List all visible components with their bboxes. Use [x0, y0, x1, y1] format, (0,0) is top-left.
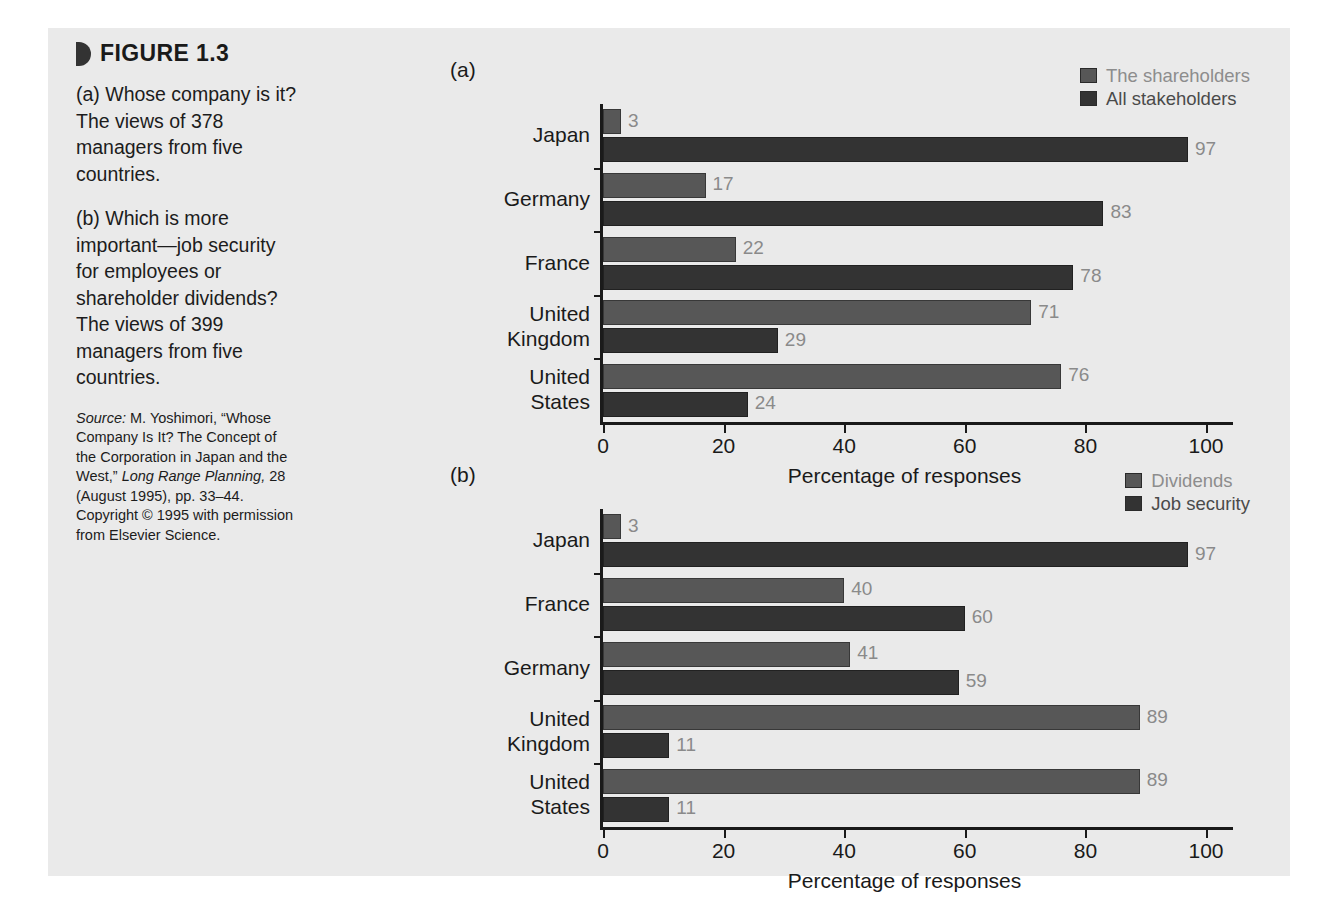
chart-x-axis-line — [600, 827, 1233, 830]
bar-chart-b-2-0 — [603, 642, 850, 667]
chart-a-panel: (a) The shareholders All stakeholders 39… — [448, 48, 1268, 448]
category-tick — [594, 636, 603, 638]
x-axis-tick-label: 0 — [597, 839, 609, 863]
bar-value-label: 3 — [628, 110, 639, 132]
bar-value-label: 78 — [1080, 265, 1101, 287]
figure-panel: FIGURE 1.3 (a) Whose company is it? The … — [48, 28, 1290, 876]
category-label: Germany — [440, 186, 590, 211]
bar-value-label: 76 — [1068, 364, 1089, 386]
category-label: United Kingdom — [440, 706, 590, 756]
bar-chart-a-1-1 — [603, 201, 1103, 226]
category-tick — [594, 231, 603, 233]
x-axis-tick — [603, 830, 605, 838]
category-label: United Kingdom — [440, 301, 590, 351]
bar-chart-a-1-0 — [603, 173, 706, 198]
caption-a-text: (a) Whose company is it? The views of 37… — [76, 83, 296, 185]
bar-value-label: 3 — [628, 515, 639, 537]
bar-value-label: 89 — [1147, 769, 1168, 791]
bar-chart-b-0-1 — [603, 542, 1188, 567]
category-label: Japan — [440, 122, 590, 147]
bar-value-label: 97 — [1195, 543, 1216, 565]
chart-a-plot-area: 397Japan1783Germany2278France7129United … — [600, 104, 1203, 422]
category-tick — [594, 763, 603, 765]
bar-value-label: 17 — [713, 173, 734, 195]
bar-chart-a-0-1 — [603, 137, 1188, 162]
x-axis-tick-label: 60 — [953, 839, 976, 863]
source-journal: Long Range Planning, — [122, 468, 266, 484]
category-label: France — [440, 591, 590, 616]
category-tick — [594, 700, 603, 702]
bar-value-label: 11 — [676, 734, 696, 756]
source-label: Source: — [76, 410, 126, 426]
bar-value-label: 83 — [1110, 201, 1131, 223]
legend-item-dividends: Dividends — [1125, 469, 1250, 492]
bar-chart-b-1-0 — [603, 578, 844, 603]
bar-value-label: 40 — [851, 578, 872, 600]
source-citation: Source: M. Yoshimori, “Whose Company Is … — [76, 409, 298, 546]
x-axis-tick — [1085, 830, 1087, 838]
category-tick — [594, 168, 603, 170]
bar-value-label: 59 — [966, 670, 987, 692]
x-axis-tick — [844, 425, 846, 433]
bar-chart-b-1-1 — [603, 606, 965, 631]
category-label: United States — [440, 364, 590, 414]
category-tick — [594, 295, 603, 297]
legend-label-dividends: Dividends — [1151, 469, 1232, 492]
x-axis-tick — [844, 830, 846, 838]
bar-chart-a-2-1 — [603, 265, 1073, 290]
x-axis-tick-label: 80 — [1074, 839, 1097, 863]
bar-value-label: 89 — [1147, 706, 1168, 728]
bar-chart-b-3-0 — [603, 705, 1140, 730]
figure-heading: FIGURE 1.3 — [76, 40, 298, 67]
bar-value-label: 24 — [755, 392, 776, 414]
legend-swatch-icon — [1080, 68, 1097, 83]
x-axis-tick — [965, 830, 967, 838]
x-axis-tick — [603, 425, 605, 433]
x-axis-tick-label: 100 — [1188, 839, 1223, 863]
chart-b-panel-label: (b) — [450, 463, 476, 487]
caption-part-a: (a) Whose company is it? The views of 37… — [76, 81, 298, 187]
caption-part-b: (b) Which is more important—job security… — [76, 205, 298, 391]
bar-chart-a-4-0 — [603, 364, 1061, 389]
legend-label-shareholders: The shareholders — [1106, 64, 1250, 87]
bar-chart-a-4-1 — [603, 392, 748, 417]
figure-bullet-icon — [76, 42, 91, 66]
category-tick — [594, 358, 603, 360]
chart-b-plot-area: 397Japan4060France4159Germany8911United … — [600, 509, 1203, 827]
caption-column: FIGURE 1.3 (a) Whose company is it? The … — [76, 40, 298, 545]
bar-value-label: 29 — [785, 329, 806, 351]
bar-chart-b-3-1 — [603, 733, 669, 758]
x-axis-tick — [1206, 425, 1208, 433]
bar-chart-a-0-0 — [603, 109, 621, 134]
caption-b-text: (b) Which is more important—job security… — [76, 207, 278, 388]
bar-chart-a-2-0 — [603, 237, 736, 262]
bar-chart-b-0-0 — [603, 514, 621, 539]
category-label: Japan — [440, 527, 590, 552]
bar-value-label: 60 — [972, 606, 993, 628]
x-axis-tick — [1085, 425, 1087, 433]
x-axis-tick — [1206, 830, 1208, 838]
bar-value-label: 71 — [1038, 301, 1059, 323]
legend-swatch-icon — [1125, 473, 1142, 488]
chart-a-panel-label: (a) — [450, 58, 476, 82]
category-label: United States — [440, 769, 590, 819]
x-axis-title: Percentage of responses — [788, 869, 1021, 893]
bar-chart-b-4-0 — [603, 769, 1140, 794]
legend-item-shareholders: The shareholders — [1080, 64, 1250, 87]
x-axis-tick-label: 40 — [833, 839, 856, 863]
x-axis-tick — [724, 830, 726, 838]
bar-chart-b-4-1 — [603, 797, 669, 822]
bar-value-label: 22 — [743, 237, 764, 259]
category-label: Germany — [440, 655, 590, 680]
bar-chart-b-2-1 — [603, 670, 959, 695]
category-label: France — [440, 250, 590, 275]
bar-value-label: 11 — [676, 797, 696, 819]
chart-b-panel: (b) Dividends Job security 397Japan4060F… — [448, 453, 1268, 853]
bar-chart-a-3-0 — [603, 300, 1031, 325]
bar-value-label: 97 — [1195, 138, 1216, 160]
bar-chart-a-3-1 — [603, 328, 778, 353]
figure-title: FIGURE 1.3 — [100, 40, 229, 67]
x-axis-tick — [965, 425, 967, 433]
x-axis-tick-label: 20 — [712, 839, 735, 863]
x-axis-tick — [724, 425, 726, 433]
